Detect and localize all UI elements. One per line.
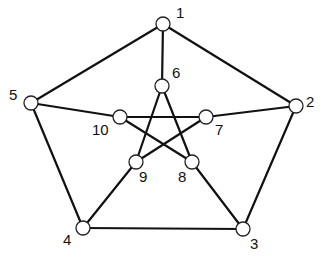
node-label-5: 5 <box>9 86 17 103</box>
node-8 <box>185 155 199 169</box>
node-6 <box>155 79 169 93</box>
node-10 <box>113 110 127 124</box>
node-label-10: 10 <box>92 121 109 138</box>
edge-4-5 <box>31 103 83 228</box>
edge-1-2 <box>163 24 296 106</box>
node-9 <box>129 155 143 169</box>
node-1 <box>156 17 170 31</box>
edge-8-10 <box>120 117 192 162</box>
edge-1-6 <box>162 24 163 86</box>
edge-5-10 <box>31 103 120 117</box>
node-5 <box>24 96 38 110</box>
edge-2-3 <box>243 106 296 229</box>
edge-6-9 <box>136 86 162 162</box>
edge-5-1 <box>31 24 163 103</box>
node-4 <box>76 221 90 235</box>
node-7 <box>199 110 213 124</box>
node-label-8: 8 <box>178 168 186 185</box>
edge-3-8 <box>192 162 243 229</box>
graph-edges <box>31 24 296 229</box>
node-label-4: 4 <box>63 231 71 248</box>
edge-3-4 <box>83 228 243 229</box>
node-label-9: 9 <box>139 168 147 185</box>
petersen-graph: 12345678910 <box>0 0 322 260</box>
node-label-3: 3 <box>250 235 258 252</box>
edge-6-8 <box>162 86 192 162</box>
node-2 <box>289 99 303 113</box>
node-label-2: 2 <box>306 93 314 110</box>
edge-4-9 <box>83 162 136 228</box>
node-label-6: 6 <box>172 64 180 81</box>
edge-2-7 <box>206 106 296 117</box>
node-label-7: 7 <box>215 121 223 138</box>
node-3 <box>236 222 250 236</box>
node-label-1: 1 <box>176 4 184 21</box>
